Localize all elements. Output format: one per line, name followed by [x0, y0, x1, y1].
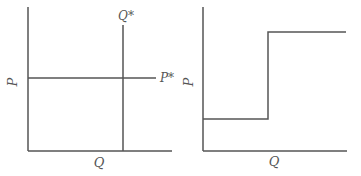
step-curve — [203, 32, 346, 119]
q-star-label: Q* — [118, 9, 134, 23]
right-panel — [203, 7, 347, 151]
left-panel — [28, 7, 172, 151]
left-x-axis-label: Q — [94, 155, 105, 170]
right-x-axis-label: Q — [269, 154, 280, 169]
p-star-label: P* — [159, 71, 174, 85]
diagram-canvas: P Q Q* P* P Q — [0, 0, 361, 176]
left-y-axis-label: P — [5, 77, 20, 87]
right-y-axis-label: P — [181, 77, 196, 87]
